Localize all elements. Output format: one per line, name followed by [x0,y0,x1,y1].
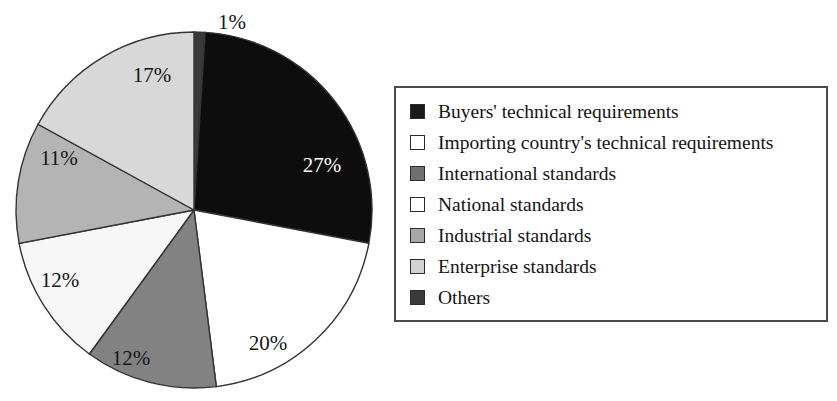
pie-slice-value-label: 12% [41,268,80,292]
legend-item[interactable]: Buyers' technical requirements [410,96,820,127]
legend-swatch-icon [410,197,425,212]
pie-slice-value-label: 27% [303,153,342,177]
legend-swatch-icon [410,259,425,274]
pie-chart-area: 1%27%20%12%12%11%17% [0,0,400,401]
legend-item[interactable]: Importing country's technical requiremen… [410,127,820,158]
legend-item-label: Enterprise standards [438,257,597,277]
legend-item[interactable]: Industrial standards [410,220,820,251]
legend-swatch-icon [410,135,425,150]
pie-chart-figure: 1%27%20%12%12%11%17% Buyers' technical r… [0,0,837,401]
legend-item-label: Buyers' technical requirements [438,102,679,122]
pie-slice-value-label: 11% [40,146,78,170]
legend-item[interactable]: Others [410,282,820,313]
legend-item-label: Importing country's technical requiremen… [438,133,773,153]
pie-slice-value-label: 12% [112,346,151,370]
legend-item-label: International standards [438,164,616,184]
pie-slice[interactable] [194,32,372,243]
legend-item-label: Others [438,288,490,308]
pie-chart-svg: 1%27%20%12%12%11%17% [0,0,400,401]
pie-slice-value-label: 17% [133,63,172,87]
pie-slice-group [16,32,372,388]
pie-slice-value-label: 1% [218,10,246,34]
pie-slice-value-label: 20% [249,331,288,355]
legend-item[interactable]: National standards [410,189,820,220]
legend-swatch-icon [410,166,425,181]
legend-box: Buyers' technical requirementsImporting … [394,86,828,322]
legend-item-label: National standards [438,195,584,215]
legend-swatch-icon [410,104,425,119]
legend-item-label: Industrial standards [438,226,591,246]
legend-item[interactable]: International standards [410,158,820,189]
legend-swatch-icon [410,290,425,305]
legend-list: Buyers' technical requirementsImporting … [410,96,820,313]
legend-item[interactable]: Enterprise standards [410,251,820,282]
legend-swatch-icon [410,228,425,243]
